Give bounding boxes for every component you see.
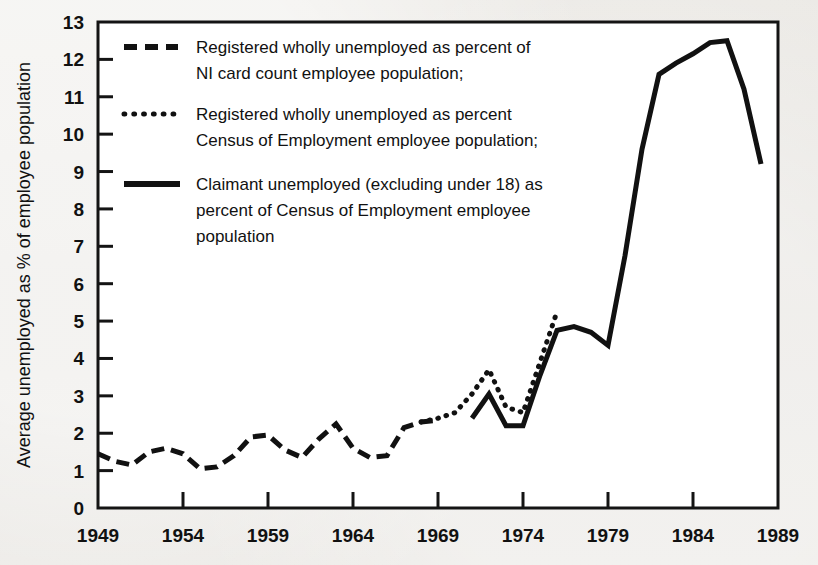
- y-tick-label: 13: [63, 12, 84, 33]
- legend-item-2-line2: percent of Census of Employment employee: [196, 201, 531, 220]
- x-tick-label: 1984: [672, 525, 715, 546]
- y-tick-label: 1: [73, 461, 84, 482]
- y-tick-label: 3: [73, 386, 84, 407]
- unemployment-line-chart: 012345678910111213 194919541959196419691…: [0, 0, 818, 565]
- y-tick-label: 11: [64, 87, 85, 108]
- y-tick-label: 0: [73, 498, 84, 519]
- y-tick-label: 6: [73, 274, 84, 295]
- x-tick-label: 1979: [587, 525, 629, 546]
- x-tick-label: 1969: [417, 525, 459, 546]
- legend-item-0-line2: NI card count employee population;: [196, 64, 463, 83]
- x-tick-label: 1974: [502, 525, 545, 546]
- x-tick-label: 1964: [332, 525, 375, 546]
- legend-item-0-line1: Registered wholly unemployed as percent …: [196, 38, 531, 57]
- legend-item-2-line3: population: [196, 227, 274, 246]
- y-axis-title: Average unemployed as % of employee popu…: [14, 62, 34, 468]
- y-tick-label: 9: [73, 162, 84, 183]
- x-tick-label: 1989: [757, 525, 799, 546]
- y-tick-label: 5: [73, 311, 84, 332]
- y-tick-label: 4: [73, 348, 84, 369]
- x-tick-label: 1954: [162, 525, 205, 546]
- x-tick-label: 1949: [77, 525, 119, 546]
- y-tick-label: 2: [73, 423, 84, 444]
- legend-item-2-line1: Claimant unemployed (excluding under 18)…: [196, 175, 543, 194]
- legend-item-1-line2: Census of Employment employee population…: [196, 131, 538, 150]
- y-tick-label: 8: [73, 199, 84, 220]
- legend-item-1-line1: Registered wholly unemployed as percent: [196, 105, 512, 124]
- plot-area-background: [98, 22, 778, 508]
- y-tick-label: 10: [63, 124, 84, 145]
- x-tick-label: 1959: [247, 525, 289, 546]
- chart-svg: 012345678910111213 194919541959196419691…: [0, 0, 818, 565]
- y-tick-label: 7: [73, 236, 84, 257]
- y-tick-label: 12: [63, 49, 84, 70]
